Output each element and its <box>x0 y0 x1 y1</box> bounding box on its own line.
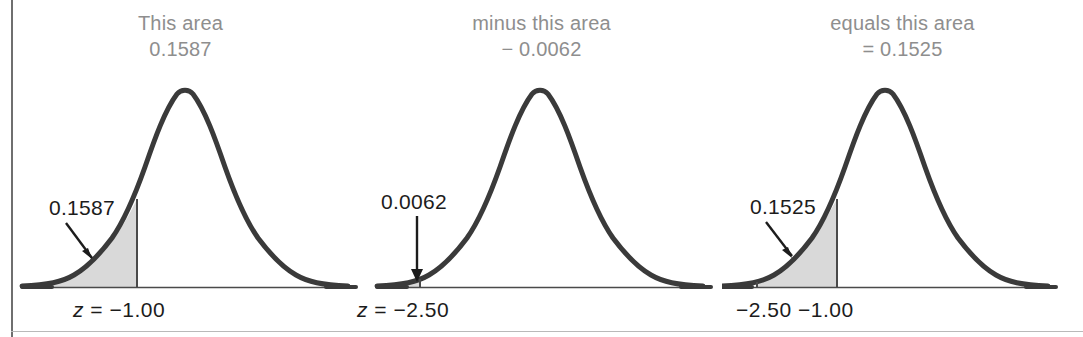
z-value-1: = −1.00 <box>84 298 165 321</box>
z-variable-1: z <box>73 298 84 321</box>
panel-caption-2: minus this area − 0.0062 <box>361 10 722 62</box>
caption-line-2: − 0.0062 <box>361 36 722 62</box>
caption-line-1: This area <box>138 12 223 34</box>
panel-minus-this-area: minus this area − 0.0062 0.0062 z = −2.5… <box>361 0 722 337</box>
axis-label-3: −2.50 −1.00 <box>736 298 854 322</box>
normal-curve-path <box>722 90 1048 286</box>
panel-equals-this-area: equals this area = 0.1525 0.1525 −2.50 −… <box>722 0 1083 337</box>
panel-caption-3: equals this area = 0.1525 <box>722 10 1083 62</box>
annotation-arrow-head <box>82 248 92 259</box>
normal-curve-path <box>22 90 348 286</box>
z-value-2: = −2.50 <box>368 298 449 321</box>
caption-line-2: 0.1587 <box>0 36 361 62</box>
area-annotation-label-2: 0.0062 <box>381 190 447 214</box>
caption-line-2: = 0.1525 <box>722 36 1083 62</box>
caption-line-1: equals this area <box>830 12 974 34</box>
z-value-3: −2.50 −1.00 <box>736 298 854 321</box>
panel-caption-1: This area 0.1587 <box>0 10 361 62</box>
normal-curve-figure: This area 0.1587 0.1587 z = −1.00 minus … <box>0 0 1083 337</box>
z-variable-2: z <box>357 298 368 321</box>
axis-label-2: z = −2.50 <box>357 298 449 322</box>
area-annotation-label-3: 0.1525 <box>750 195 816 219</box>
area-annotation-label-1: 0.1587 <box>49 196 115 220</box>
panel-this-area: This area 0.1587 0.1587 z = −1.00 <box>0 0 361 337</box>
caption-line-1: minus this area <box>472 12 611 34</box>
normal-curve-path <box>377 90 703 286</box>
axis-label-1: z = −1.00 <box>73 298 165 322</box>
